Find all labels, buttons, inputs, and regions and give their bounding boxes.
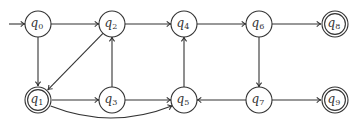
state-q3: q3 bbox=[99, 87, 125, 113]
state-q8: q8 bbox=[322, 11, 348, 37]
state-q5: q5 bbox=[171, 87, 197, 113]
state-q9: q9 bbox=[322, 87, 348, 113]
state-q7: q7 bbox=[246, 87, 272, 113]
state-q6: q6 bbox=[246, 11, 272, 37]
state-q4: q4 bbox=[171, 11, 197, 37]
state-q0: q0 bbox=[25, 11, 51, 37]
state-q1: q1 bbox=[25, 87, 51, 113]
nodes-layer: q0q2q4q6q8q1q3q5q7q9 bbox=[25, 11, 348, 113]
edges-layer bbox=[9, 21, 321, 118]
edge-q2-q1 bbox=[48, 33, 103, 90]
automaton-diagram: q0q2q4q6q8q1q3q5q7q9 bbox=[0, 0, 361, 123]
state-q2: q2 bbox=[99, 11, 125, 37]
